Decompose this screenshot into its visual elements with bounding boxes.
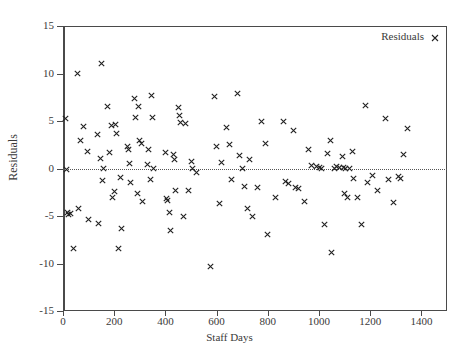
data-point-marker: [106, 149, 113, 156]
data-point-marker: [70, 245, 77, 252]
data-point-marker: [113, 130, 120, 137]
data-point-marker: [362, 102, 369, 109]
data-point-marker: [80, 123, 87, 130]
data-point-marker: [395, 173, 402, 180]
data-point-marker: [364, 179, 371, 186]
data-point-marker: [249, 213, 256, 220]
plot-area: [63, 26, 447, 311]
data-point-marker: [180, 213, 187, 220]
data-point-marker: [226, 141, 233, 148]
y-axis-tick-label: 0: [14, 163, 54, 174]
data-point-marker: [404, 125, 411, 132]
data-point-marker: [170, 151, 177, 158]
data-point-marker: [77, 137, 84, 144]
data-point-marker: [65, 211, 72, 218]
data-point-marker: [164, 197, 171, 204]
data-point-marker: [264, 231, 271, 238]
data-point-marker: [125, 146, 132, 153]
data-point-marker: [305, 146, 312, 153]
legend-entry-label: Residuals: [381, 30, 424, 42]
data-point-marker: [244, 205, 251, 212]
data-point-marker: [163, 195, 170, 202]
x-axis-tick-label: 1200: [345, 316, 395, 327]
data-point-marker: [149, 114, 156, 121]
data-point-marker: [139, 198, 146, 205]
scatter-plot-figure: Residuals -15-10-50510150200400600800100…: [0, 0, 459, 354]
data-point-marker: [400, 151, 407, 158]
data-point-marker: [136, 137, 143, 144]
data-point-marker: [382, 115, 389, 122]
data-point-marker: [167, 227, 174, 234]
data-point-marker: [135, 103, 142, 110]
data-point-marker: [241, 183, 248, 190]
data-point-marker: [117, 174, 124, 181]
data-point-marker: [236, 152, 243, 159]
data-point-marker: [216, 200, 223, 207]
y-axis-tick-label: 5: [14, 115, 54, 126]
data-point-marker: [67, 210, 74, 217]
data-point-marker: [134, 190, 141, 197]
legend-x-marker-icon: [431, 32, 439, 40]
data-point-marker: [301, 198, 308, 205]
data-point-marker: [84, 148, 91, 155]
x-axis-tick-label: 1400: [396, 316, 446, 327]
data-point-marker: [64, 209, 71, 216]
data-point-marker: [397, 175, 404, 182]
data-point-marker: [272, 194, 279, 201]
data-point-marker: [350, 175, 357, 182]
data-point-marker: [390, 199, 397, 206]
data-point-marker: [97, 155, 104, 162]
y-axis-tick-label: -5: [14, 210, 54, 221]
data-point-marker: [98, 60, 105, 67]
x-axis-tick-label: 0: [38, 316, 88, 327]
data-point-marker: [385, 176, 392, 183]
data-point-marker: [85, 216, 92, 223]
data-point-marker: [262, 140, 269, 147]
data-point-marker: [228, 176, 235, 183]
data-point-marker: [171, 156, 178, 163]
data-point-marker: [321, 221, 328, 228]
data-point-marker: [62, 115, 69, 122]
x-axis-tick-label: 1000: [294, 316, 344, 327]
data-point-marker: [218, 159, 225, 166]
data-point-marker: [75, 205, 82, 212]
data-point-marker: [193, 169, 200, 176]
x-axis-tick-label: 200: [89, 316, 139, 327]
data-point-marker: [148, 92, 155, 99]
data-point-marker: [339, 153, 346, 160]
data-point-marker: [147, 176, 154, 183]
data-point-marker: [280, 118, 287, 125]
data-point-marker: [144, 161, 151, 168]
data-point-marker: [246, 156, 253, 163]
data-point-marker: [223, 124, 230, 131]
data-point-marker: [188, 158, 195, 165]
data-point-marker: [94, 131, 101, 138]
legend: Residuals: [373, 26, 445, 46]
data-point-marker: [126, 160, 133, 167]
data-point-marker: [349, 148, 356, 155]
x-axis-label: Staff Days: [0, 331, 459, 343]
data-point-marker: [258, 118, 265, 125]
data-point-marker: [127, 179, 134, 186]
data-point-marker: [108, 122, 115, 129]
y-axis-tick-label: -15: [14, 305, 54, 316]
data-point-marker: [358, 221, 365, 228]
data-point-marker: [374, 187, 381, 194]
data-point-marker: [131, 95, 138, 102]
data-point-marker: [185, 187, 192, 194]
data-point-marker: [234, 90, 241, 97]
data-point-marker: [341, 190, 348, 197]
zero-reference-line: [63, 169, 447, 170]
data-point-marker: [172, 187, 179, 194]
data-point-marker: [290, 127, 297, 134]
data-point-marker: [213, 143, 220, 150]
data-point-marker: [354, 194, 361, 201]
y-axis-tick-label: 15: [14, 20, 54, 31]
x-axis-tick-label: 600: [192, 316, 242, 327]
data-point-marker: [175, 104, 182, 111]
x-axis-tick-label: 800: [243, 316, 293, 327]
data-point-marker: [115, 245, 122, 252]
data-point-marker: [292, 184, 299, 191]
data-point-marker: [166, 209, 173, 216]
data-point-marker: [104, 103, 111, 110]
